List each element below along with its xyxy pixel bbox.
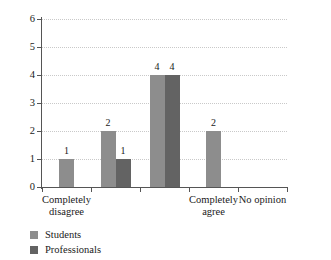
- legend-label: Students: [45, 229, 81, 240]
- bar-students-1: [101, 131, 116, 187]
- bar-professionals-1: [116, 159, 131, 187]
- x-axis-line: [41, 187, 288, 188]
- legend-swatch-icon: [30, 231, 38, 239]
- x-tick-mark: [287, 188, 288, 192]
- bar-value-label: 2: [95, 118, 122, 128]
- y-tick-label: 2: [11, 126, 35, 136]
- x-tick-mark: [189, 188, 190, 192]
- y-tick-label: 0: [11, 182, 35, 192]
- legend-item[interactable]: Professionals: [30, 243, 101, 256]
- bar-professionals-2: [165, 75, 180, 187]
- bar-value-label: 1: [110, 146, 137, 156]
- bar-students-0: [59, 159, 74, 187]
- chart-legend: StudentsProfessionals: [30, 228, 101, 258]
- bar-chart: 0123456 121442 Completely disagreeComple…: [0, 0, 331, 260]
- y-tick-label: 4: [11, 70, 35, 80]
- y-tick-label: 5: [11, 42, 35, 52]
- x-tick-mark: [238, 188, 239, 192]
- y-tick-label: 1: [11, 154, 35, 164]
- bar-students-2: [150, 75, 165, 187]
- bars-layer: 121442: [42, 19, 287, 187]
- bar-value-label: 4: [159, 62, 186, 72]
- x-axis-label: Completely disagree: [22, 194, 112, 217]
- bar-students-3: [206, 131, 221, 187]
- x-tick-mark: [91, 188, 92, 192]
- legend-item[interactable]: Students: [30, 228, 101, 241]
- legend-swatch-icon: [30, 246, 38, 254]
- bar-value-label: 2: [200, 118, 227, 128]
- x-tick-mark: [42, 188, 43, 192]
- y-tick-label: 3: [11, 98, 35, 108]
- x-tick-mark: [140, 188, 141, 192]
- x-axis-label: No opinion: [218, 194, 308, 206]
- bar-value-label: 1: [53, 146, 80, 156]
- y-tick-label: 6: [11, 14, 35, 24]
- legend-label: Professionals: [45, 244, 101, 255]
